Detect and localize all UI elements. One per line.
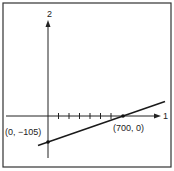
diagram-canvas: 2 1 (0, −105) (700, 0) xyxy=(0,0,174,171)
point-y-intercept xyxy=(46,140,50,144)
point-label-y-intercept: (0, −105) xyxy=(5,127,41,137)
point-x-intercept xyxy=(121,114,125,118)
point-label-x-intercept: (700, 0) xyxy=(113,123,144,133)
vertical-axis-label: 2 xyxy=(47,9,52,19)
frame-border xyxy=(3,3,171,167)
horizontal-axis-label: 1 xyxy=(163,111,168,121)
